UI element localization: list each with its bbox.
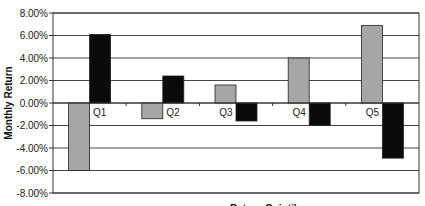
category-label: Q4 [293, 107, 307, 118]
y-tick-label: 4.00% [20, 53, 48, 64]
category-label: Q5 [366, 107, 380, 118]
bar-q5-series-1 [361, 25, 382, 103]
y-tick-label: -4.00% [16, 143, 48, 154]
y-tick-label: 2.00% [20, 75, 48, 86]
bar-q1-series-1 [69, 103, 90, 171]
y-axis-ticks: 8.00%6.00%4.00%2.00%0.00%-2.00%-4.00%-6.… [16, 8, 53, 199]
y-axis-title: Monthly Return [3, 66, 14, 139]
bar-q2-series-1 [142, 103, 163, 119]
bar-q3-series-2 [236, 103, 257, 121]
y-tick-label: -8.00% [16, 188, 48, 199]
bar-chart: 8.00%6.00%4.00%2.00%0.00%-2.00%-4.00%-6.… [0, 0, 425, 206]
bar-q3-series-1 [215, 85, 236, 103]
category-label: Q3 [219, 107, 233, 118]
bars [69, 25, 404, 170]
x-axis-title: Return Quintile [230, 203, 303, 206]
y-tick-label: 6.00% [20, 30, 48, 41]
category-label: Q2 [166, 107, 180, 118]
y-tick-label: 8.00% [20, 8, 48, 19]
y-tick-label: 0.00% [20, 98, 48, 109]
y-tick-label: -2.00% [16, 120, 48, 131]
bar-q4-series-1 [288, 58, 309, 103]
bar-q4-series-2 [309, 103, 330, 126]
y-tick-label: -6.00% [16, 165, 48, 176]
bar-q1-series-2 [90, 34, 111, 103]
bar-q5-series-2 [382, 103, 403, 158]
bar-q2-series-2 [163, 76, 184, 103]
category-label: Q1 [93, 107, 107, 118]
